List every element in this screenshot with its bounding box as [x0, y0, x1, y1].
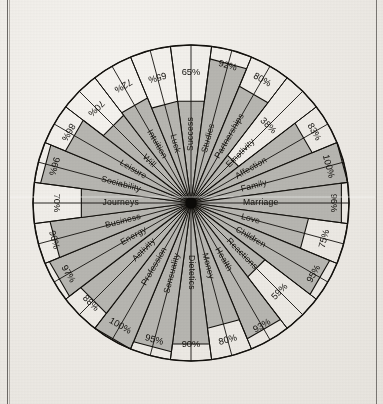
center-hub: [186, 198, 197, 209]
percent-label: 96%: [329, 194, 339, 213]
sector-label: Journeys: [103, 197, 139, 207]
percent-label: 65%: [182, 67, 201, 77]
percent-label: 83%: [305, 121, 323, 142]
percent-label: 72%: [113, 77, 134, 95]
radar-chart: SuccessStudiesPartnershipsEmotivityAffec…: [0, 0, 383, 404]
scanned-page-background: SuccessStudiesPartnershipsEmotivityAffec…: [0, 0, 383, 404]
sector-label: Marriage: [243, 197, 279, 207]
sector-label: Success: [185, 117, 195, 151]
percent-label: 90%: [182, 339, 201, 349]
percent-label: 65%: [147, 70, 168, 84]
percent-label: 80%: [217, 332, 238, 346]
sector-label: Dietetics: [187, 255, 197, 290]
percent-label: 80%: [252, 71, 273, 89]
radar-chart-svg: SuccessStudiesPartnershipsEmotivityAffec…: [0, 0, 383, 404]
percent-label: 75%: [317, 228, 331, 249]
percent-label: 70%: [52, 194, 62, 213]
